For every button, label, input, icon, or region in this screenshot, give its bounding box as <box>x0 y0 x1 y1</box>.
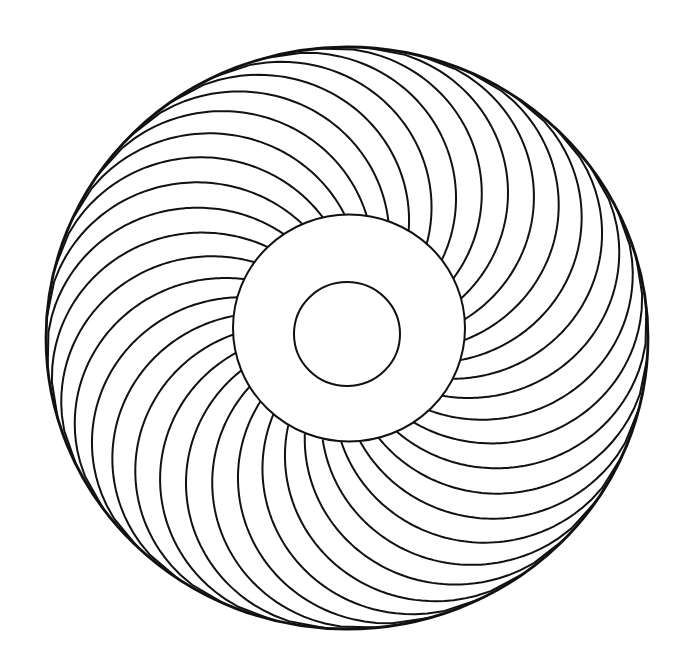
mandala-artwork <box>0 0 692 661</box>
middle-ring <box>233 215 465 442</box>
